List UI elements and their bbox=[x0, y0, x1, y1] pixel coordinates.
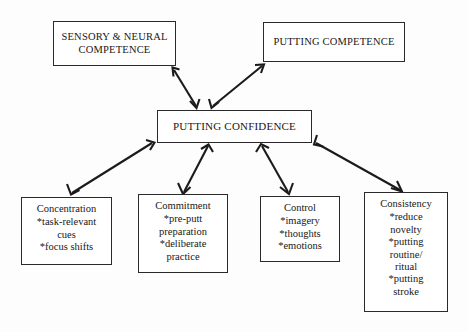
box-putting-competence[interactable]: PUTTING COMPETENCE bbox=[263, 22, 405, 62]
list-item-text: thoughts bbox=[285, 228, 321, 239]
connector-confidence-sensory bbox=[173, 68, 200, 109]
list-item-continuation: practice bbox=[139, 251, 227, 263]
box-title: Consistency bbox=[380, 198, 431, 210]
box-concentration[interactable]: Concentration *task-relevant cues *focus… bbox=[21, 197, 112, 265]
list-item-text: imagery bbox=[285, 215, 319, 226]
list-item: *task-relevant bbox=[22, 216, 111, 228]
list-item-continuation: preparation bbox=[139, 226, 227, 238]
list-item-continuation: stroke bbox=[365, 286, 447, 298]
box-title: Commitment bbox=[155, 200, 210, 212]
list-item-continuation: cues bbox=[22, 229, 111, 241]
list-item: *deliberate bbox=[139, 238, 227, 250]
list-item-text: putting bbox=[394, 236, 424, 247]
box-sensory-neural-competence[interactable]: SENSORY & NEURAL COMPETENCE bbox=[53, 21, 176, 66]
box-item-list: *pre-putt preparation *deliberate practi… bbox=[139, 213, 227, 263]
list-item: *putting bbox=[365, 236, 447, 248]
connector-confidence-commitment bbox=[178, 145, 213, 195]
list-item: *focus shifts bbox=[22, 241, 111, 253]
list-item: *emotions bbox=[261, 240, 339, 252]
list-item: *imagery bbox=[261, 215, 339, 227]
box-title: Concentration bbox=[37, 203, 96, 215]
list-item-text: reduce bbox=[395, 211, 423, 222]
list-item-continuation: routine/ bbox=[365, 249, 447, 261]
list-item-continuation: novelty bbox=[365, 224, 447, 236]
box-consistency[interactable]: Consistency *reduce novelty *putting rou… bbox=[364, 192, 448, 312]
list-item: *reduce bbox=[365, 211, 447, 223]
list-item-text: putting bbox=[394, 273, 424, 284]
list-item-text: pre-putt bbox=[169, 213, 202, 224]
connector-confidence-competence bbox=[209, 65, 264, 109]
list-item-text: focus shifts bbox=[45, 241, 93, 252]
center-box-label: PUTTING CONFIDENCE bbox=[173, 120, 296, 133]
box-commitment[interactable]: Commitment *pre-putt preparation *delibe… bbox=[138, 194, 228, 273]
connector-confidence-control bbox=[256, 144, 293, 194]
connector-confidence-concentration bbox=[67, 140, 155, 195]
diagram-canvas: SENSORY & NEURAL COMPETENCE PUTTING COMP… bbox=[0, 0, 468, 332]
box-title-line-2: COMPETENCE bbox=[78, 44, 150, 56]
box-title-line-1: PUTTING COMPETENCE bbox=[273, 36, 394, 48]
list-item-text: deliberate bbox=[165, 238, 206, 249]
box-title-line-1: SENSORY & NEURAL bbox=[61, 31, 167, 43]
box-item-list: *task-relevant cues *focus shifts bbox=[22, 216, 111, 253]
list-item: *pre-putt bbox=[139, 213, 227, 225]
box-item-list: *reduce novelty *putting routine/ ritual… bbox=[365, 211, 447, 298]
list-item-text: emotions bbox=[283, 240, 322, 251]
box-putting-confidence[interactable]: PUTTING CONFIDENCE bbox=[157, 110, 312, 143]
list-item: *putting bbox=[365, 273, 447, 285]
box-item-list: *imagery *thoughts *emotions bbox=[261, 215, 339, 252]
connector-confidence-consistency bbox=[314, 135, 402, 192]
list-item-text: task-relevant bbox=[42, 216, 96, 227]
box-control[interactable]: Control *imagery *thoughts *emotions bbox=[260, 196, 340, 262]
box-title: Control bbox=[284, 202, 316, 214]
list-item: *thoughts bbox=[261, 228, 339, 240]
list-item-continuation: ritual bbox=[365, 261, 447, 273]
